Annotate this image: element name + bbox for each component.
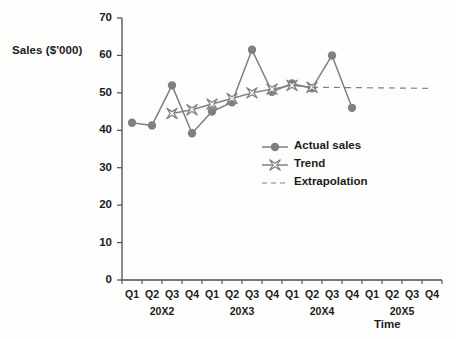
legend-marker-filled-circle [262, 143, 288, 151]
series-trend [167, 80, 317, 118]
sales-trend-chart: Sales ($'000) Time 010203040506070 Q1Q2Q… [0, 0, 456, 339]
data-point [128, 119, 136, 127]
series-line [312, 87, 432, 88]
data-point [348, 104, 356, 112]
legend-marker-open-x [262, 160, 288, 170]
data-point [208, 107, 216, 115]
data-point [328, 51, 336, 59]
series-extrapolation [312, 87, 432, 88]
axis-lines [122, 18, 442, 280]
data-point [248, 46, 256, 54]
data-point [148, 121, 156, 129]
series-actual-sales [128, 46, 356, 138]
data-point [168, 81, 176, 89]
plot-area [0, 0, 456, 339]
data-point [188, 129, 196, 137]
series-line [132, 50, 352, 133]
